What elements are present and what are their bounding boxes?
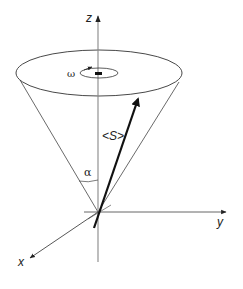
spin-vector bbox=[94, 99, 138, 228]
precession-diagram: z y x ω <S> α bbox=[0, 0, 243, 289]
precession-center-dot bbox=[95, 72, 102, 75]
cone-right-edge bbox=[98, 82, 179, 212]
z-axis-label: z bbox=[85, 11, 92, 25]
y-axis-label: y bbox=[216, 215, 224, 229]
x-axis-label: x bbox=[17, 255, 25, 269]
x-axis bbox=[30, 212, 98, 258]
cone-left-edge bbox=[20, 80, 98, 212]
alpha-arc bbox=[79, 180, 98, 182]
spin-vector-label: <S> bbox=[102, 129, 124, 143]
omega-label: ω bbox=[67, 68, 75, 79]
alpha-label: α bbox=[84, 166, 92, 179]
